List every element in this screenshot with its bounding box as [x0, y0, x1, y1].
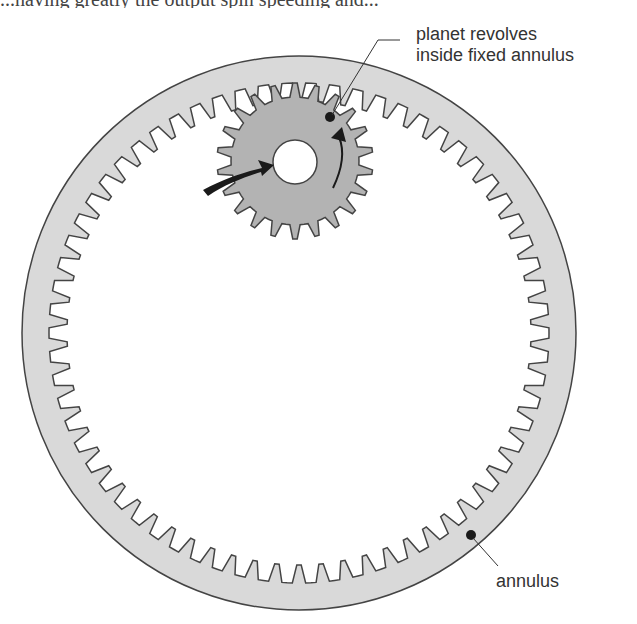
planet-label-line-2: inside fixed annulus	[416, 45, 574, 66]
planetary-gear-diagram	[0, 0, 637, 624]
planet-label-line-1: planet revolves	[416, 24, 574, 45]
annulus-marker-dot	[466, 530, 476, 540]
annulus-leader-line	[473, 538, 498, 566]
planet-gear-body	[218, 83, 373, 239]
planet-label: planet revolves inside fixed annulus	[416, 24, 574, 66]
planet-gear	[218, 83, 373, 239]
annulus-label: annulus	[496, 571, 559, 592]
